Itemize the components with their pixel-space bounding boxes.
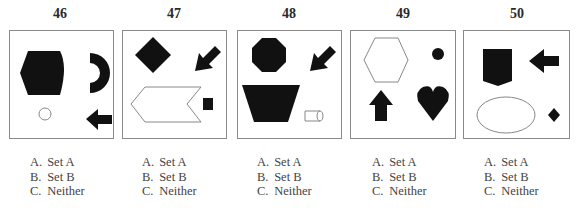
ellipse-icon: [477, 97, 535, 133]
option-label: Neither: [501, 184, 538, 198]
question-number: 48: [231, 6, 347, 22]
option-letter: B.: [484, 170, 498, 185]
diamond-icon: [135, 37, 171, 73]
option-letter: C.: [257, 184, 271, 199]
option-b[interactable]: B. Set B: [142, 170, 197, 185]
answer-options: A. Set A B. Set B C. Neither: [484, 155, 539, 199]
option-a[interactable]: A. Set A: [372, 155, 427, 170]
option-c[interactable]: C. Neither: [30, 184, 85, 199]
option-a[interactable]: A. Set A: [257, 155, 312, 170]
option-letter: C.: [372, 184, 386, 199]
up-arrow-icon: [369, 90, 393, 121]
down-left-arrow-icon: [310, 46, 336, 71]
figure-box: [9, 30, 114, 139]
option-letter: A.: [30, 155, 44, 170]
option-label: Set A: [274, 155, 301, 169]
down-left-arrow-icon: [195, 46, 221, 71]
option-c[interactable]: C. Neither: [372, 184, 427, 199]
option-letter: A.: [484, 155, 498, 170]
option-letter: A.: [142, 155, 156, 170]
figure-box: [350, 30, 456, 139]
half-ring-icon: [90, 53, 110, 93]
option-c[interactable]: C. Neither: [142, 184, 197, 199]
answer-options: A. Set A B. Set B C. Neither: [30, 155, 85, 199]
question-number: 47: [116, 6, 232, 22]
option-letter: C.: [484, 184, 498, 199]
option-label: Set B: [389, 170, 416, 184]
option-label: Neither: [47, 184, 84, 198]
square-icon: [203, 98, 213, 110]
small-diamond-icon: [548, 108, 560, 122]
option-letter: A.: [372, 155, 386, 170]
option-a[interactable]: A. Set A: [142, 155, 197, 170]
question-number: 50: [459, 6, 575, 22]
option-c[interactable]: C. Neither: [257, 184, 312, 199]
option-label: Set A: [159, 155, 186, 169]
circle-icon: [39, 108, 51, 120]
option-a[interactable]: A. Set A: [484, 155, 539, 170]
option-a[interactable]: A. Set A: [30, 155, 85, 170]
option-label: Set B: [501, 170, 528, 184]
option-label: Set B: [274, 170, 301, 184]
question-number: 49: [345, 6, 461, 22]
option-letter: B.: [372, 170, 386, 185]
option-letter: C.: [142, 184, 156, 199]
option-label: Set B: [47, 170, 74, 184]
heart-icon: [417, 86, 449, 121]
question-number: 46: [2, 6, 118, 22]
shield-pentagon-icon: [483, 49, 512, 86]
option-label: Set A: [47, 155, 74, 169]
option-letter: B.: [30, 170, 44, 185]
option-b[interactable]: B. Set B: [484, 170, 539, 185]
option-label: Set A: [501, 155, 528, 169]
option-label: Set B: [159, 170, 186, 184]
figure-box: [122, 30, 227, 139]
figure-box: [237, 30, 342, 139]
trapezoid-icon: [242, 85, 300, 122]
left-arrow-icon: [529, 49, 559, 73]
dot-icon: [432, 48, 444, 60]
chevron-icon: [131, 87, 201, 122]
option-letter: C.: [30, 184, 44, 199]
hexagon-icon: [20, 51, 64, 95]
option-c[interactable]: C. Neither: [484, 184, 539, 199]
option-label: Neither: [389, 184, 426, 198]
option-b[interactable]: B. Set B: [257, 170, 312, 185]
answer-options: A. Set A B. Set B C. Neither: [142, 155, 197, 199]
left-arrow-icon: [86, 109, 112, 130]
octagon-icon: [252, 38, 286, 72]
hexagon-outline-icon: [364, 38, 408, 82]
option-label: Set A: [389, 155, 416, 169]
figure-box: [463, 30, 570, 139]
option-b[interactable]: B. Set B: [372, 170, 427, 185]
cylinder-icon: [305, 111, 323, 121]
option-label: Neither: [274, 184, 311, 198]
answer-options: A. Set A B. Set B C. Neither: [372, 155, 427, 199]
option-b[interactable]: B. Set B: [30, 170, 85, 185]
option-label: Neither: [159, 184, 196, 198]
option-letter: A.: [257, 155, 271, 170]
option-letter: B.: [142, 170, 156, 185]
option-letter: B.: [257, 170, 271, 185]
answer-options: A. Set A B. Set B C. Neither: [257, 155, 312, 199]
